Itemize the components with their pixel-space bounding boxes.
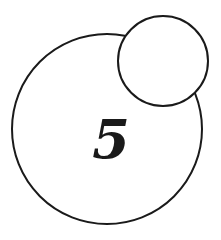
diagram-canvas: 5 [0,0,221,240]
large-circle-label: 5 [92,108,130,172]
small-circle [118,16,208,106]
